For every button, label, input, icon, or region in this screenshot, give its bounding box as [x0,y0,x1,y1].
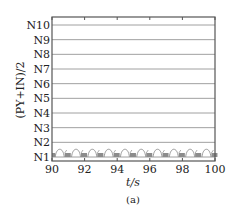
series-waveform [52,149,217,157]
y-tick-label: N10 [26,19,50,32]
y-tick-label: N5 [33,92,50,105]
waveform-arch [88,149,97,157]
waveform-spike [163,150,165,153]
waveform-arch [186,149,195,157]
waveform-plateau [81,153,87,157]
waveform-spike [179,150,181,153]
y-axis-label: (PY+IN)/2 [14,61,27,118]
waveform-arch [137,149,146,157]
waveform-plateau [65,153,71,157]
waveform-spike [114,150,116,153]
waveform-arch [72,149,81,157]
y-tick-label: N9 [33,34,50,47]
chart: 9092949698100 N1N2N3N4N5N6N7N8N9N10 t/s … [0,0,240,219]
y-tick-label: N1 [33,151,50,164]
waveform-spike [130,150,132,153]
waveform-plateau [179,153,185,157]
y-axis-ticks: N1N2N3N4N5N6N7N8N9N10 [26,19,50,164]
waveform-spike [195,150,197,153]
waveform-arch [104,149,113,157]
waveform-spike [146,150,148,153]
y-tick-label: N6 [33,78,50,91]
waveform-plateau [114,153,120,157]
x-tick-label: 96 [143,163,157,176]
waveform-plateau [130,153,136,157]
y-tick-label: N3 [33,122,50,135]
waveform-spike [81,150,83,153]
plot-frame [52,17,215,161]
grid-lines [52,25,215,157]
waveform-plateau [146,153,152,157]
waveform-plateau [195,153,201,157]
y-tick-label: N7 [33,63,50,76]
waveform-arch [55,149,64,157]
waveform-spike [65,150,67,153]
waveform-spike [211,150,213,153]
x-tick-label: 98 [175,163,189,176]
waveform-arch [153,149,162,157]
waveform-arch [120,149,129,157]
x-tick-label: 92 [78,163,92,176]
waveform-arch [202,149,211,157]
waveform-plateau [97,153,103,157]
x-tick-label: 100 [205,163,226,176]
waveform-arch [169,149,178,157]
waveform-spike [97,150,99,153]
figure-caption: (a) [126,194,140,205]
x-tick-label: 90 [45,163,59,176]
y-tick-label: N8 [33,48,50,61]
y-tick-label: N4 [33,107,50,120]
x-tick-label: 94 [110,163,124,176]
x-axis-label: t/s [126,176,140,189]
waveform-plateau [163,153,169,157]
y-tick-label: N2 [33,136,50,149]
